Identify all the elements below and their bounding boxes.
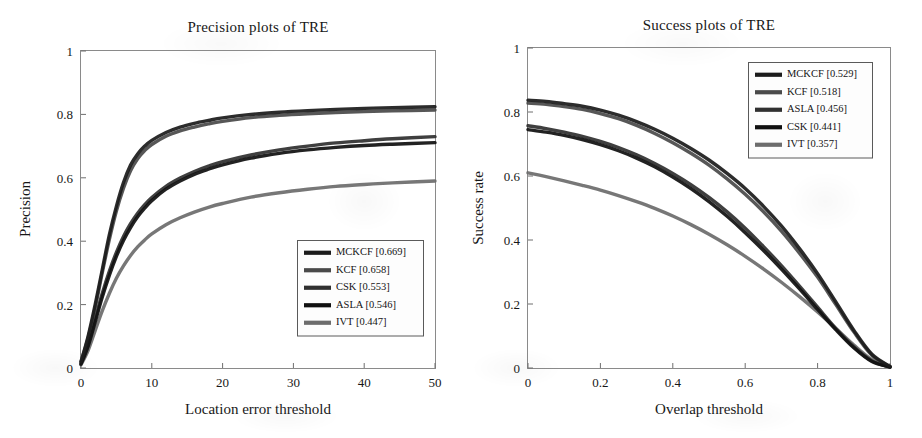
y-tick-label: 0.4 — [504, 233, 521, 248]
x-tick-label: 0 — [525, 375, 532, 390]
legend-label-kcf: KCF [0.518] — [787, 86, 841, 97]
x-tick-label: 0.6 — [737, 375, 754, 390]
legend-label-mckcf: MCKCF [0.669] — [336, 246, 406, 257]
x-tick-label: 40 — [358, 375, 371, 390]
y-tick-label: 0.2 — [504, 297, 520, 312]
figure-container: Precision plots of TRE 0102030405000.20.… — [0, 0, 922, 438]
x-tick-label: 30 — [287, 375, 300, 390]
success-chart-svg: Success plots of TRE 00.20.40.60.8100.20… — [461, 0, 922, 438]
success-xaxis-label: Overlap threshold — [655, 401, 763, 417]
y-tick-label: 0.8 — [504, 105, 520, 120]
y-tick-label: 0.4 — [57, 234, 74, 249]
precision-yaxis-label: Precision — [17, 181, 33, 237]
legend-label-ivt: IVT [0.447] — [336, 316, 387, 327]
success-chart-title: Success plots of TRE — [643, 17, 775, 33]
legend-label-asla: ASLA [0.456] — [787, 103, 847, 114]
x-tick-label: 10 — [145, 375, 158, 390]
precision-legend[interactable]: MCKCF [0.669]KCF [0.658]CSK [0.553]ASLA … — [298, 241, 424, 337]
legend-label-csk: CSK [0.441] — [787, 121, 841, 132]
x-tick-label: 0 — [78, 375, 85, 390]
y-tick-label: 0.6 — [57, 171, 74, 186]
x-tick-label: 0.8 — [809, 375, 825, 390]
y-tick-label: 0.8 — [57, 107, 73, 122]
x-tick-label: 0.4 — [665, 375, 682, 390]
success-legend[interactable]: MCKCF [0.529]KCF [0.518]ASLA [0.456]CSK … — [749, 63, 873, 159]
y-tick-label: 0 — [514, 361, 521, 376]
y-tick-label: 0.2 — [57, 298, 73, 313]
y-tick-label: 0.6 — [504, 169, 521, 184]
precision-chart-title: Precision plots of TRE — [187, 19, 328, 35]
legend-label-ivt: IVT [0.357] — [787, 138, 838, 149]
x-tick-label: 20 — [216, 375, 229, 390]
x-tick-label: 50 — [429, 375, 442, 390]
panel-success-plots: Success plots of TRE 00.20.40.60.8100.20… — [461, 0, 922, 438]
x-tick-label: 0.2 — [592, 375, 608, 390]
legend-label-kcf: KCF [0.658] — [336, 264, 390, 275]
y-tick-label: 1 — [67, 44, 74, 59]
y-tick-label: 1 — [514, 41, 521, 56]
y-tick-label: 0 — [67, 361, 74, 376]
success-yaxis-label: Success rate — [470, 171, 486, 245]
precision-chart-svg: Precision plots of TRE 0102030405000.20.… — [0, 0, 461, 438]
legend-label-asla: ASLA [0.546] — [336, 299, 396, 310]
precision-xaxis-label: Location error threshold — [185, 401, 331, 417]
panel-precision-plots: Precision plots of TRE 0102030405000.20.… — [0, 0, 461, 438]
x-tick-label: 1 — [887, 375, 894, 390]
legend-label-csk: CSK [0.553] — [336, 281, 390, 292]
legend-label-mckcf: MCKCF [0.529] — [787, 68, 857, 79]
